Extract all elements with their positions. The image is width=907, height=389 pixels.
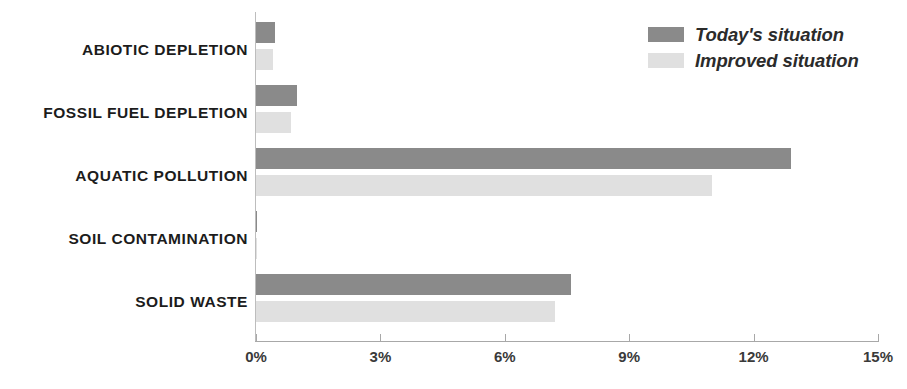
x-axis-tick <box>380 334 381 342</box>
bar-todays-situation <box>256 22 275 43</box>
category-label: AQUATIC POLLUTION <box>75 167 248 185</box>
category-label: ABIOTIC DEPLETION <box>82 41 248 59</box>
x-axis-line <box>255 341 878 342</box>
x-axis-tick-label: 15% <box>863 348 893 365</box>
x-axis-tick <box>505 334 506 342</box>
x-axis-tick-label: 3% <box>370 348 392 365</box>
bar-improved-situation <box>256 301 555 322</box>
bar-todays-situation <box>256 85 297 106</box>
bar-todays-situation <box>256 211 257 232</box>
x-axis-tick <box>256 334 257 342</box>
bar-improved-situation <box>256 175 712 196</box>
bar-group: FOSSIL FUEL DEPLETION <box>0 85 907 140</box>
bar-todays-situation <box>256 274 571 295</box>
bar-group: AQUATIC POLLUTION <box>0 148 907 203</box>
bar-group: SOIL CONTAMINATION <box>0 211 907 266</box>
category-label: SOIL CONTAMINATION <box>68 230 248 248</box>
category-label: SOLID WASTE <box>135 293 248 311</box>
x-axis-tick-label: 9% <box>618 348 640 365</box>
plot-area: 0%3%6%9%12%15% ABIOTIC DEPLETIONFOSSIL F… <box>0 0 907 389</box>
bar-improved-situation <box>256 238 257 259</box>
bar-group: SOLID WASTE <box>0 274 907 329</box>
x-axis-tick <box>629 334 630 342</box>
bar-improved-situation <box>256 112 291 133</box>
x-axis-tick-label: 0% <box>245 348 267 365</box>
x-axis-tick-label: 6% <box>494 348 516 365</box>
bar-improved-situation <box>256 49 273 70</box>
x-axis-tick-label: 12% <box>739 348 769 365</box>
bar-todays-situation <box>256 148 791 169</box>
category-label: FOSSIL FUEL DEPLETION <box>43 104 248 122</box>
bar-group: ABIOTIC DEPLETION <box>0 22 907 77</box>
x-axis-tick <box>878 334 879 342</box>
bar-chart: Today's situation Improved situation 0%3… <box>0 0 907 389</box>
x-axis-tick <box>754 334 755 342</box>
